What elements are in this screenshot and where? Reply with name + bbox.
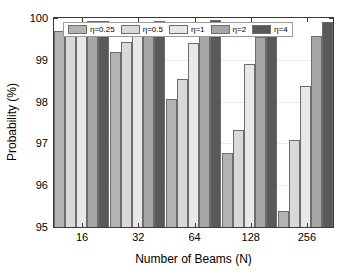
bar: [121, 42, 132, 227]
bar: [289, 140, 300, 227]
bar: [233, 130, 244, 227]
bar-group: [277, 18, 333, 227]
legend-swatch: [68, 25, 87, 34]
bar: [65, 28, 76, 227]
bar: [110, 52, 121, 227]
bar-group: [166, 18, 222, 227]
plot-area: 9596979899100 163264128256: [53, 17, 334, 228]
bar: [87, 21, 98, 227]
bar-groups: [54, 18, 333, 227]
x-tick: [195, 223, 196, 228]
bar: [322, 22, 333, 227]
y-tick-label: 95: [36, 221, 48, 233]
bar: [177, 79, 188, 227]
legend-swatch: [252, 25, 271, 34]
x-axis-title: Number of Beams (N): [53, 252, 334, 266]
bar: [210, 20, 221, 227]
bar: [311, 36, 322, 227]
bar: [54, 31, 65, 227]
bar: [266, 23, 277, 227]
y-tick-label: 96: [36, 179, 48, 191]
x-tick: [138, 223, 139, 228]
x-tick-label: 256: [298, 231, 316, 243]
legend-label: η=0.5: [143, 26, 163, 34]
bar: [278, 211, 289, 227]
x-tick: [82, 223, 83, 228]
x-tick-label: 16: [76, 231, 88, 243]
bar-group: [54, 18, 110, 227]
y-tick: [53, 227, 58, 228]
y-tick-label: 99: [36, 54, 48, 66]
y-tick-label: 97: [36, 137, 48, 149]
bar: [300, 86, 311, 227]
x-tick: [307, 223, 308, 228]
y-axis-title: Probability (%): [5, 47, 19, 197]
x-tick-label: 64: [188, 231, 200, 243]
figure: Probability (%) Number of Beams (N) 9596…: [0, 0, 350, 277]
bar: [76, 23, 87, 227]
y-tick-label: 100: [30, 12, 48, 24]
legend-swatch: [121, 25, 140, 34]
bar: [199, 27, 210, 227]
legend-label: η=0.25: [90, 26, 115, 34]
bar-group: [110, 18, 166, 227]
legend-label: η=4: [274, 26, 288, 34]
y-tick-label: 98: [36, 96, 48, 108]
bar: [255, 37, 266, 227]
bar: [244, 64, 255, 227]
legend-label: η=1: [191, 26, 205, 34]
legend-item[interactable]: η=1: [169, 25, 205, 34]
x-tick: [307, 17, 308, 22]
bar: [143, 23, 154, 227]
bar: [166, 99, 177, 227]
legend-item[interactable]: η=0.25: [68, 25, 115, 34]
legend-item[interactable]: η=0.5: [121, 25, 163, 34]
bar: [98, 21, 109, 227]
legend-swatch: [211, 25, 230, 34]
x-tick: [251, 223, 252, 228]
bar: [222, 153, 233, 227]
legend: η=0.25η=0.5η=1η=2η=4: [63, 22, 293, 37]
bar: [132, 30, 143, 227]
legend-label: η=2: [233, 26, 247, 34]
x-tick-label: 128: [242, 231, 260, 243]
bar: [188, 43, 199, 227]
bar-group: [221, 18, 277, 227]
legend-item[interactable]: η=4: [252, 25, 288, 34]
legend-swatch: [169, 25, 188, 34]
y-tick: [329, 227, 334, 228]
legend-item[interactable]: η=2: [211, 25, 247, 34]
x-tick-label: 32: [132, 231, 144, 243]
bar: [154, 21, 165, 227]
